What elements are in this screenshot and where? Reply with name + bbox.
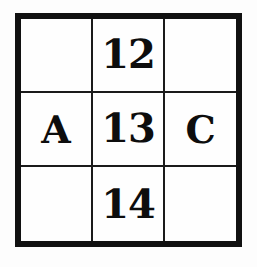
grid-cell-text-r1c1: 13: [101, 109, 155, 149]
grid-cell-r0c2: [165, 19, 236, 93]
grid-cell-r0c0: [21, 19, 93, 93]
grid-cell-r2c1: 14: [93, 167, 165, 241]
grid-cell-text-r2c1: 14: [101, 185, 155, 225]
grid-cell-r2c2: [165, 167, 236, 241]
grid-cell-r1c0: A: [21, 93, 93, 167]
grid-outer-frame: 12 A 13 C 14: [15, 13, 242, 247]
grid-cell-r1c2: C: [165, 93, 236, 167]
grid-body: 12 A 13 C 14: [21, 19, 236, 241]
grid-cell-r1c1: 13: [93, 93, 165, 167]
grid-cell-text-r1c2: C: [185, 111, 215, 149]
grid-cell-text-r1c0: A: [41, 111, 70, 149]
grid-cell-r0c1: 12: [93, 19, 165, 93]
figure-canvas: 12 A 13 C 14: [0, 0, 257, 267]
grid-cell-r2c0: [21, 167, 93, 241]
grid-cell-text-r0c1: 12: [101, 35, 155, 75]
